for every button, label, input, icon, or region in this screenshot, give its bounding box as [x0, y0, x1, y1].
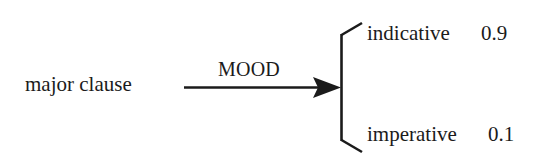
- feature-probability-indicative: 0.9: [481, 23, 507, 44]
- choice-brace-hook-top: [342, 23, 363, 35]
- system-network-diagram: major clause MOOD indicative 0.9 imperat…: [0, 0, 553, 161]
- feature-probability-imperative: 0.1: [488, 124, 514, 145]
- source-term-label: major clause: [25, 74, 132, 95]
- system-name-label: MOOD: [218, 59, 280, 79]
- feature-label-indicative: indicative: [367, 23, 450, 44]
- choice-brace-hook-bottom: [342, 140, 363, 152]
- feature-label-imperative: imperative: [367, 124, 457, 145]
